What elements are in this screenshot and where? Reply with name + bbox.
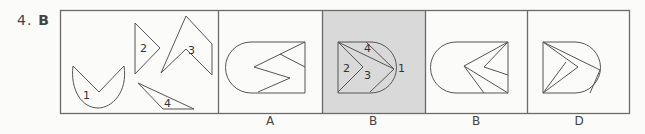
piece-3-label: 3 [188, 44, 195, 57]
option-b-piece-3-label: 3 [364, 69, 371, 82]
option-a-label[interactable]: A [260, 114, 280, 128]
option-d-label[interactable]: D [569, 114, 589, 128]
piece-3-shape [161, 16, 212, 75]
piece-1-shape [73, 66, 125, 108]
pieces-panel [73, 16, 212, 109]
puzzle-figure: 1 2 3 4 2 3 4 1 [0, 0, 645, 134]
piece-2-shape [135, 23, 160, 74]
piece-1-label: 1 [83, 89, 90, 102]
option-b2-figure [431, 42, 509, 93]
option-b-piece-2-label: 2 [343, 62, 350, 75]
option-b-piece-4-label: 4 [364, 42, 371, 55]
piece-2-label: 2 [140, 42, 147, 55]
option-b-label[interactable]: B [363, 114, 383, 128]
option-b-piece-1-label: 1 [398, 62, 405, 75]
option-b2-label[interactable]: B [466, 114, 486, 128]
option-a-figure [226, 42, 305, 93]
piece-4-label: 4 [164, 97, 171, 110]
option-d-figure [543, 42, 601, 93]
highlight-background [322, 10, 425, 113]
